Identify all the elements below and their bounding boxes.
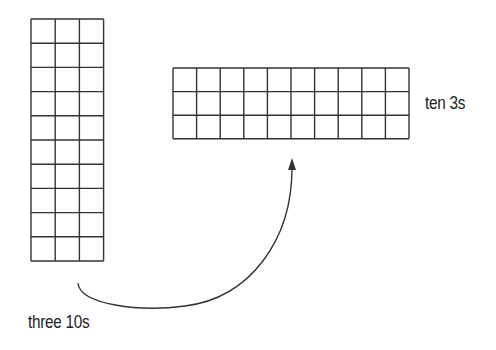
right-grid-ten-3s	[173, 68, 409, 139]
curved-arrow-icon	[78, 158, 296, 308]
left-grid-three-10s	[31, 19, 104, 261]
label-three-10s: three 10s	[28, 312, 90, 333]
label-ten-3s: ten 3s	[425, 93, 465, 114]
diagram-canvas	[0, 0, 496, 350]
